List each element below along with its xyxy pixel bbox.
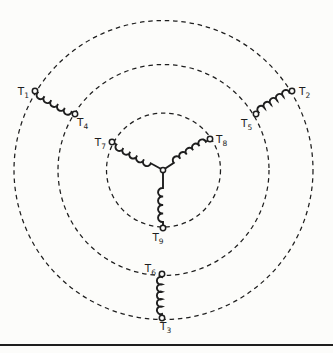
terminal-label-T1: T1 <box>17 85 29 100</box>
terminal-label-T7: T7 <box>94 136 106 151</box>
coil-T6-T3 <box>157 274 162 318</box>
star-point-junction <box>160 167 165 172</box>
terminal-T5 <box>253 111 258 116</box>
coil-T2-T5 <box>253 87 292 114</box>
coil-T7-star <box>110 142 163 174</box>
terminal-label-T4: T4 <box>76 116 88 131</box>
terminal-T2 <box>289 88 294 93</box>
terminal-label-T9: T9 <box>151 231 163 246</box>
winding-diagram: T1T2T3T4T5T6T7T8T9 <box>0 0 333 353</box>
terminal-T7 <box>109 139 114 144</box>
terminal-T8 <box>207 136 212 141</box>
terminal-label-T8: T8 <box>215 133 227 148</box>
terminal-label-T5: T5 <box>240 117 252 132</box>
coil-star-T9 <box>158 170 163 228</box>
terminal-label-T3: T3 <box>159 320 171 335</box>
terminal-label-T2: T2 <box>298 85 310 100</box>
terminal-T6 <box>159 271 164 276</box>
coil-T8-star <box>160 135 210 170</box>
terminal-T9 <box>160 225 165 230</box>
scanned-figure: T1T2T3T4T5T6T7T8T9 <box>0 0 333 353</box>
terminal-T1 <box>32 88 37 93</box>
coil-T1-T4 <box>33 91 75 118</box>
